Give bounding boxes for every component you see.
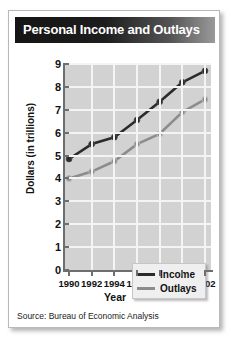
gridline-horizontal [65,63,211,65]
y-axis-tick-label: 1 [43,242,61,252]
legend-label-income: Income [160,269,195,280]
y-axis-tick-mark [63,200,69,202]
gridline-vertical [91,64,93,270]
gridline-horizontal [65,177,211,179]
x-axis-tick-mark [204,270,206,276]
chart-legend: Income Outlays [132,263,206,299]
gridline-horizontal [65,155,211,157]
x-axis-tick-mark [136,270,138,276]
legend-label-outlays: Outlays [160,283,197,294]
page-title: Personal Income and Outlays [15,17,215,43]
y-axis-label: Dollars (in trillions) [25,90,36,208]
x-axis-tick-mark [91,270,93,276]
y-axis-tick-label: 7 [43,105,61,115]
y-axis-tick-label: 9 [43,59,61,69]
series-lines [65,64,211,270]
data-point-income [66,156,72,162]
y-axis-tick-label: 3 [43,196,61,206]
plot-area-wrapper: Dollars (in trillions) 0123456789 199019… [9,47,221,297]
y-axis-tick-label: 2 [43,219,61,229]
gridline-vertical [159,64,161,270]
y-axis-tick-mark [63,132,69,134]
legend-item-outlays: Outlays [137,281,201,295]
y-axis-tick-mark [63,223,69,225]
legend-item-income: Income [137,267,201,281]
gridline-horizontal [65,132,211,134]
chart-title-bar: Personal Income and Outlays [15,17,215,43]
legend-swatch-outlays [137,287,155,290]
gridline-horizontal [65,246,211,248]
y-axis-tick-mark [63,155,69,157]
chart-card: Personal Income and Outlays Dollars (in … [8,10,220,328]
x-axis-tick-mark [113,270,115,276]
gridline-horizontal [65,109,211,111]
x-axis-tick-mark [181,270,183,276]
gridline-vertical [113,64,115,270]
y-axis-tick-labels: 0123456789 [39,47,61,269]
y-axis-tick-label: 0 [43,265,61,275]
y-axis-tick-label: 5 [43,151,61,161]
gridline-vertical [204,64,206,270]
gridline-horizontal [65,200,211,202]
y-axis-tick-label: 6 [43,128,61,138]
gridline-vertical [136,64,138,270]
y-axis-tick-mark [63,246,69,248]
x-axis-tick-mark [68,270,70,276]
source-note: Source: Bureau of Economic Analysis [17,311,159,321]
y-axis-tick-label: 8 [43,82,61,92]
x-axis-tick-mark [159,270,161,276]
y-axis-tick-mark [63,177,69,179]
gridline-horizontal [65,86,211,88]
gridline-vertical [181,64,183,270]
y-axis-tick-mark [63,86,69,88]
y-axis-tick-mark [63,109,69,111]
plot-region [65,64,211,270]
legend-swatch-income [137,273,155,276]
y-axis-tick-label: 4 [43,173,61,183]
gridline-horizontal [65,223,211,225]
y-axis-tick-mark [63,63,69,65]
